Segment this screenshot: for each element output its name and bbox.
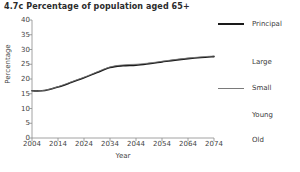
legend-swatch-small-icon <box>216 83 246 93</box>
legend-item-principal[interactable]: Principal <box>216 18 300 30</box>
x-tick-2004: 2004 <box>23 140 41 148</box>
x-tick-2024: 2024 <box>75 140 93 148</box>
legend-label-young: Young <box>246 111 273 119</box>
y-tick-40: 40 <box>8 17 30 24</box>
legend-label-old: Old <box>246 136 264 144</box>
series-canvas <box>32 20 214 138</box>
x-tick-2064: 2064 <box>179 140 197 148</box>
y-axis-label: Percentage <box>4 34 12 94</box>
plot-area <box>32 20 214 138</box>
series-line-principal <box>32 57 214 91</box>
chart-title: 4.7c Percentage of population aged 65+ <box>4 2 190 11</box>
legend-swatch-principal-icon <box>216 19 246 29</box>
legend-label-small: Small <box>246 84 271 92</box>
legend-swatch-large-icon <box>216 57 246 67</box>
x-axis-tick-labels: 20042014202420342044205420642074 <box>32 140 214 150</box>
y-tick-5: 5 <box>8 120 30 127</box>
legend-item-large[interactable]: Large <box>216 56 300 68</box>
legend-label-large: Large <box>246 58 272 66</box>
legend-item-small[interactable]: Small <box>216 82 300 94</box>
x-tick-2044: 2044 <box>127 140 145 148</box>
x-tick-2054: 2054 <box>153 140 171 148</box>
x-tick-2034: 2034 <box>101 140 119 148</box>
series-line-small <box>32 56 214 91</box>
legend-label-principal: Principal <box>246 20 282 28</box>
x-tick-2014: 2014 <box>49 140 67 148</box>
chart-figure: 4.7c Percentage of population aged 65+ 0… <box>0 0 300 172</box>
legend-swatch-old-icon <box>216 135 246 145</box>
chart-legend: PrincipalLargeSmallYoungOld <box>216 12 300 148</box>
legend-item-young[interactable]: Young <box>216 109 300 121</box>
legend-item-old[interactable]: Old <box>216 134 300 146</box>
x-axis-label: Year <box>32 152 214 160</box>
legend-swatch-young-icon <box>216 110 246 120</box>
y-tick-10: 10 <box>8 105 30 112</box>
